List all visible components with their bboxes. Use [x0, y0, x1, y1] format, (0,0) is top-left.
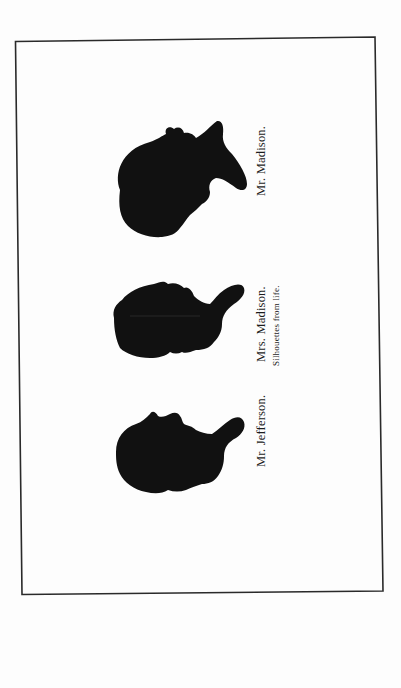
caption-mr-jefferson: Mr. Jefferson. — [254, 395, 269, 467]
madison-silhouette — [110, 120, 250, 245]
caption-silhouettes-from-life: Silhouettes from life. — [271, 285, 281, 366]
book-page: Mr. Madison. Mrs. Madison. Silhouettes f… — [0, 0, 401, 688]
caption-mr-madison: Mr. Madison. — [254, 126, 269, 196]
jefferson-silhouette — [110, 408, 250, 498]
caption-mrs-madison: Mrs. Madison. — [254, 286, 269, 362]
mrs-madison-silhouette — [110, 278, 250, 363]
